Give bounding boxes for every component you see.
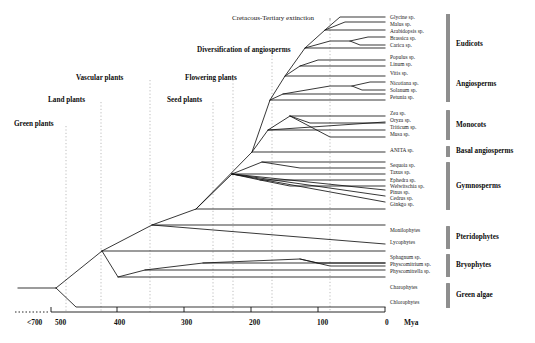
phylogenetic-tree-figure: Glycine sp.Malus sp.Arabidopsis sp.Brass… xyxy=(0,0,535,343)
taxon-label: Musa sp. xyxy=(390,132,410,137)
taxon-label: Vitis sp. xyxy=(390,71,408,76)
clade-bar-basal-angiosperms xyxy=(446,146,450,157)
clade-bar-green-algae xyxy=(446,283,450,308)
clade-label-basal-angiosperms: Basal angiosperms xyxy=(456,147,513,155)
axis-tick-400: 400 xyxy=(114,318,125,327)
clade-label-angiosperms: Angiosperms xyxy=(456,80,496,88)
node-label-seed-plants: Seed plants xyxy=(167,96,202,104)
taxon-label: Malus sp. xyxy=(390,22,411,27)
clade-label-pteridophytes: Pteridophytes xyxy=(456,233,499,241)
node-label-land-plants: Land plants xyxy=(48,96,85,104)
clade-label-gymnosperms: Gymnosperms xyxy=(456,182,501,190)
taxon-label: Sphagnum sp. xyxy=(390,255,421,260)
axis-tick-500: 500 xyxy=(55,318,66,327)
clade-label-bryophytes: Bryophytes xyxy=(456,261,491,269)
clade-bar-bryophytes xyxy=(446,254,450,277)
clade-label-green-algae: Green algae xyxy=(456,291,493,299)
taxon-label: Sequoia sp. xyxy=(390,163,415,168)
taxon-label: Physcomitrella sp. xyxy=(390,269,430,274)
taxon-label: Zea sp. xyxy=(390,111,406,116)
taxon-label: Linum sp. xyxy=(390,62,412,67)
taxon-label: Lycophytes xyxy=(390,240,415,245)
taxon-label: Monilophytes xyxy=(390,228,420,233)
clade-label-eudicots: Eudicots xyxy=(456,40,483,48)
taxon-label: Arabidopsis sp. xyxy=(390,29,424,34)
time-guidelines xyxy=(66,20,330,312)
taxon-label: Carica sp. xyxy=(390,43,412,48)
taxon-label: Nicotiana sp. xyxy=(390,81,419,86)
node-label-green-plants: Green plants xyxy=(14,120,54,128)
node-label-vascular-plants: Vascular plants xyxy=(76,74,123,82)
axis-unit-label: Mya xyxy=(404,318,418,327)
event-label-diversification: Diversification of angiosperms xyxy=(197,46,290,54)
axis-tick-lt700: <700 xyxy=(27,318,42,327)
taxon-label: Charophytes xyxy=(390,285,417,290)
taxon-label: Ginkgo sp. xyxy=(390,202,414,207)
taxon-label: ANITA sp. xyxy=(390,148,414,153)
taxon-label: Chlorophytes xyxy=(390,300,419,305)
clade-bar-angiosperms xyxy=(446,14,450,102)
axis-tick-0: 0 xyxy=(385,318,389,327)
taxon-label: Brassica sp. xyxy=(390,36,416,41)
clade-bar-pteridophytes xyxy=(446,226,450,249)
event-label-ktx: Cretacous-Tertiary extinction xyxy=(232,14,314,22)
taxon-label: Oryza sp. xyxy=(390,118,411,123)
taxon-label: Populus sp. xyxy=(390,55,415,60)
taxon-label: Triticum sp. xyxy=(390,125,416,130)
taxon-label: Taxus sp. xyxy=(390,170,410,175)
node-label-flowering-plants: Flowering plants xyxy=(185,74,237,82)
clade-bar-gymnosperms xyxy=(446,162,450,210)
axis-tick-100: 100 xyxy=(317,318,328,327)
clade-label-monocots: Monocots xyxy=(456,121,486,129)
taxon-label: Glycine sp. xyxy=(390,15,415,20)
tree-branches xyxy=(18,17,385,307)
taxon-label: Solanum sp. xyxy=(390,88,417,93)
taxon-label: Petunia sp. xyxy=(390,95,414,100)
taxon-label: Physcomitrium sp. xyxy=(390,262,431,267)
clade-bar-monocots xyxy=(446,110,450,140)
axis-tick-200: 200 xyxy=(249,318,260,327)
axis-tick-300: 300 xyxy=(181,318,192,327)
